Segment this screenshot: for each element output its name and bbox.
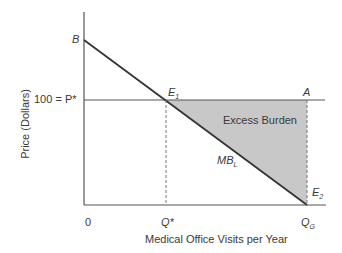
q-g-label: QG (301, 216, 315, 230)
point-a-label: A (303, 86, 310, 98)
price-label: 100 = P* (34, 93, 77, 105)
origin-label: 0 (85, 216, 91, 228)
x-axis-label: Medical Office Visits per Year (145, 233, 288, 245)
mb-curve-label: MBL (217, 154, 237, 168)
point-e2-label: E2 (312, 186, 323, 200)
point-b-label: B (72, 33, 79, 45)
y-axis-label: Price (Dollars) (19, 69, 31, 179)
excess-burden-label: Excess Burden (223, 114, 297, 126)
q-star-label: Q* (161, 216, 174, 228)
point-e1-label: E1 (168, 86, 179, 100)
